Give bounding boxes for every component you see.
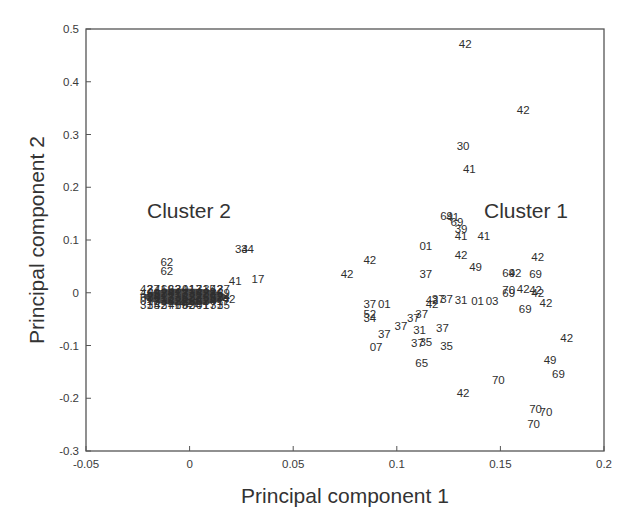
cluster-1-label: Cluster 1 xyxy=(484,199,568,222)
point-label: 69 xyxy=(502,287,515,299)
point-label: 03 xyxy=(486,295,499,307)
plot-frame xyxy=(86,29,604,451)
x-tick-label: 0 xyxy=(186,458,192,470)
point-label: 70 xyxy=(492,374,505,386)
point-label: 42 xyxy=(455,249,468,261)
point-label: 35 xyxy=(440,340,453,352)
x-tick-label: -0.05 xyxy=(73,458,99,470)
point-label: 07 xyxy=(370,341,383,353)
cluster-2-label: Cluster 2 xyxy=(147,199,231,222)
point-label: 41 xyxy=(477,230,490,242)
point-label: 41 xyxy=(229,275,242,287)
point-label: 42 xyxy=(560,332,573,344)
x-tick-label: 0.15 xyxy=(489,458,511,470)
point-label: 01 xyxy=(419,240,432,252)
data-point-labels: 4242304169416939414101424242423749694269… xyxy=(140,38,573,430)
x-tick-label: 0.1 xyxy=(389,458,405,470)
point-label: 35 xyxy=(419,336,432,348)
x-tick-label: 0.2 xyxy=(596,458,612,470)
point-label: 65 xyxy=(415,357,428,369)
point-label: 17 xyxy=(252,273,265,285)
point-label: 37 xyxy=(395,320,408,332)
y-tick-label: 0.4 xyxy=(63,76,80,88)
y-tick-label: -0.3 xyxy=(59,445,79,457)
y-tick-label: 0.5 xyxy=(63,23,79,35)
svg-text:35: 35 xyxy=(217,299,230,311)
y-tick-label: 0.2 xyxy=(63,181,79,193)
point-label: 42 xyxy=(540,297,553,309)
point-label: 42 xyxy=(363,254,376,266)
point-label: 37 xyxy=(440,293,453,305)
y-tick-label: 0 xyxy=(73,287,79,299)
point-label: 31 xyxy=(455,294,468,306)
point-label: 41 xyxy=(455,230,468,242)
point-label: 31 xyxy=(413,324,426,336)
point-label: 42 xyxy=(459,38,472,50)
point-label: 37 xyxy=(378,328,391,340)
point-label: 42 xyxy=(517,283,530,295)
point-label: 34 xyxy=(241,243,254,255)
point-label: 49 xyxy=(469,261,482,273)
point-label: 69 xyxy=(552,368,565,380)
point-label: 42 xyxy=(341,268,354,280)
point-label: 49 xyxy=(544,354,557,366)
point-label: 42 xyxy=(517,104,530,116)
y-tick-label: -0.2 xyxy=(59,392,79,404)
point-label: 37 xyxy=(436,322,449,334)
pca-scatter-chart: -0.0500.050.10.150.2-0.3-0.2-0.100.10.20… xyxy=(0,0,636,527)
point-label: 69 xyxy=(529,268,542,280)
point-label: 42 xyxy=(509,267,522,279)
point-label: 01 xyxy=(378,298,391,310)
x-axis-title: Principal component 1 xyxy=(241,484,449,507)
dense-label-cluster: 4237416962340117313542374169623401173135… xyxy=(140,283,230,311)
point-label: 70 xyxy=(527,418,540,430)
point-label: 42 xyxy=(531,251,544,263)
point-label: 37 xyxy=(407,312,420,324)
point-label: 34 xyxy=(363,312,376,324)
y-axis-title: Principal component 2 xyxy=(25,136,48,344)
point-label: 37 xyxy=(419,268,432,280)
y-tick-label: -0.1 xyxy=(59,340,79,352)
y-tick-label: 0.3 xyxy=(63,129,79,141)
x-tick-label: 0.05 xyxy=(282,458,304,470)
point-label: 62 xyxy=(160,265,173,277)
point-label: 41 xyxy=(463,163,476,175)
y-tick-label: 0.1 xyxy=(63,234,79,246)
point-label: 30 xyxy=(457,140,470,152)
point-label: 69 xyxy=(519,303,532,315)
point-label: 01 xyxy=(471,295,484,307)
point-label: 70 xyxy=(540,406,553,418)
point-label: 42 xyxy=(457,387,470,399)
